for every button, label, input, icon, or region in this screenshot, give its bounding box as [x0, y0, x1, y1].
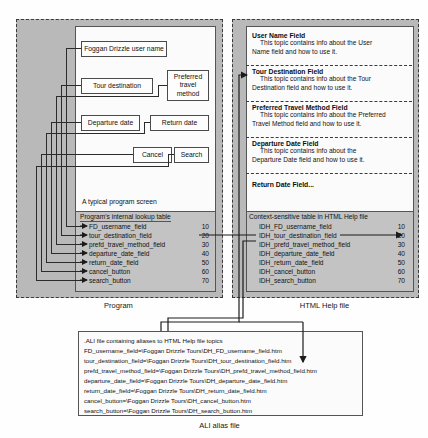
widget-tour-destination-field[interactable]: Tour destination	[81, 78, 153, 94]
context-row-id: IDH_cancel_button	[259, 268, 315, 275]
help-topic-title: Departure Date Field	[252, 140, 408, 147]
widget-label: Search	[181, 151, 203, 159]
help-topic: Departure Date Field This topic contains…	[252, 140, 408, 164]
context-row-value: 50	[391, 259, 405, 266]
help-topic-divider	[246, 137, 412, 138]
context-row-id: IDH_departure_date_field	[259, 250, 335, 257]
lookup-row-value: 10	[195, 223, 209, 230]
lookup-table-title: Program's internal lookup table	[80, 213, 171, 222]
ali-file-title: .ALI file containing aliases to HTML Hel…	[84, 337, 223, 344]
lookup-row-value: 20	[195, 232, 209, 239]
ali-file-line: search_button=\Foggan Drizzle Tours\DH_s…	[84, 407, 252, 414]
context-row: IDH_prefd_travel_method_field 30	[259, 241, 350, 248]
help-region-label: HTML Help file	[232, 301, 417, 310]
help-topic-title: User Name Field	[252, 32, 408, 39]
lookup-row-id: tour_destination_field	[89, 232, 152, 239]
help-topic-divider	[246, 101, 412, 102]
lookup-row-value: 40	[195, 250, 209, 257]
widget-label: Foggan Drizzle user name	[84, 45, 164, 53]
context-row-value: 30	[391, 241, 405, 248]
context-row-value: 60	[391, 268, 405, 275]
widget-departure-date-field[interactable]: Departure date	[81, 115, 140, 131]
ali-file-line: FD_usernamе_field=\Foggan Drizzle Tours\…	[84, 347, 282, 354]
program-screen-caption: A typical program screen	[82, 198, 157, 205]
lookup-row-value: 70	[195, 277, 209, 284]
context-row-id: IDH_FD_username_field	[259, 223, 332, 230]
ali-file-line: departure_date_field=\Foggan Drizzle Tou…	[84, 377, 287, 384]
lookup-row-value: 60	[195, 268, 209, 275]
lookup-row-id: return_date_field	[89, 259, 139, 266]
program-region-label: Program	[16, 301, 221, 310]
help-topic-line1: This topic contains info about the User	[252, 39, 408, 48]
context-row-id: IDH_search_button	[259, 277, 316, 284]
context-row-value: 70	[391, 277, 405, 284]
context-row: IDH_FD_username_field 10	[259, 223, 332, 230]
diagram-canvas: Foggan Drizzle user name Tour destinatio…	[0, 0, 428, 438]
help-topic-title: Preferred Travel Method Field	[252, 104, 408, 111]
lookup-row: prefd_travel_method_field 30	[89, 241, 165, 248]
help-topic-line1: This topic contains info about the Tour	[252, 75, 408, 84]
lookup-row: return_date_field 50	[89, 259, 139, 266]
help-topic-title: Tour Destination Field	[252, 68, 408, 75]
widget-return-date-field[interactable]: Return date	[150, 115, 209, 131]
widget-preferred-travel-method-field[interactable]: Preferred travel method	[167, 70, 209, 101]
help-topic-divider	[246, 65, 412, 66]
context-row: IDH_tour_destination_field 20	[259, 232, 337, 239]
lookup-row: search_button 70	[89, 277, 131, 284]
lookup-row: cancel_button 60	[89, 268, 130, 275]
context-table-title: Context-sensitive table in HTML Help fil…	[249, 213, 368, 221]
help-topic-line2: Name field and how to use it.	[252, 48, 408, 57]
help-topic: Preferred Travel Method Field This topic…	[252, 104, 408, 128]
context-row-id: IDH_return_date_field	[259, 259, 324, 266]
help-topic-line1: This topic contains info about the	[252, 147, 408, 156]
widget-user-name-field[interactable]: Foggan Drizzle user name	[81, 41, 167, 57]
help-topic-line1: This topic contains info about the Prefe…	[252, 111, 408, 120]
help-topic: User Name Field This topic contains info…	[252, 32, 408, 56]
widget-label: Tour destination	[93, 82, 141, 90]
lookup-row-id: prefd_travel_method_field	[89, 241, 165, 248]
context-row: IDH_return_date_field 50	[259, 259, 324, 266]
context-row: IDH_cancel_button 60	[259, 268, 315, 275]
widget-label: Cancel	[142, 151, 163, 159]
help-topic-line2: Departure Date field and how to use it.	[252, 156, 408, 165]
widget-label: Departure date	[88, 119, 133, 127]
help-topic-title: Return Date Field...	[252, 181, 408, 188]
lookup-row-value: 30	[195, 241, 209, 248]
lookup-row-value: 50	[195, 259, 209, 266]
help-topic-line2: Travel Method field and how to use it.	[252, 120, 408, 129]
context-row: IDH_departure_date_field 40	[259, 250, 335, 257]
lookup-row: tour_destination_field 20	[89, 232, 152, 239]
lookup-row-id: FD_usernamе_field	[89, 223, 147, 230]
context-row-value: 40	[391, 250, 405, 257]
ali-file-line: cancel_button=\Foggan Drizzle Tours\DH_c…	[84, 397, 251, 404]
ali-file-line: prefd_travel_method_field=\Foggan Drizzl…	[84, 367, 317, 374]
ali-file-line: return_date_field=\Foggan Drizzle Tours\…	[84, 387, 267, 394]
help-topic: Return Date Field...	[252, 181, 408, 188]
lookup-row: FD_usernamе_field 10	[89, 223, 147, 230]
help-topic-line2: Destination field and how to use it.	[252, 84, 408, 93]
help-topic-divider	[246, 173, 412, 174]
context-row: IDH_search_button 70	[259, 277, 316, 284]
context-row-value: 10	[391, 223, 405, 230]
widget-label: Preferred travel method	[168, 73, 208, 98]
widget-label: Return date	[162, 119, 198, 127]
ali-file-line: tour_destination_field=\Foggan Drizzle T…	[84, 357, 291, 364]
widget-search-button[interactable]: Search	[174, 147, 209, 163]
lookup-row: departure_date_field 40	[89, 250, 150, 257]
context-row-value: 20	[391, 232, 405, 239]
context-row-id: IDH_prefd_travel_method_field	[259, 241, 350, 248]
lookup-row-id: cancel_button	[89, 268, 130, 275]
help-topic: Tour Destination Field This topic contai…	[252, 68, 408, 92]
lookup-row-id: search_button	[89, 277, 131, 284]
context-row-id: IDH_tour_destination_field	[259, 232, 337, 239]
ali-region-label: ALI alias file	[78, 421, 361, 430]
widget-cancel-button[interactable]: Cancel	[133, 147, 172, 163]
lookup-row-id: departure_date_field	[89, 250, 150, 257]
